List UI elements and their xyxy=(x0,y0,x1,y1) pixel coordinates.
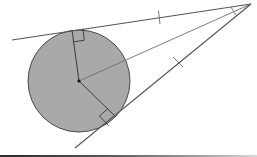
bottom-edge-strip xyxy=(0,155,257,157)
tangents-diagram xyxy=(0,0,257,157)
equal-length-tick-lower xyxy=(173,57,183,67)
tangent-line-upper xyxy=(12,4,251,40)
angle-arc-at-external-point xyxy=(231,7,237,16)
center-point xyxy=(77,79,80,82)
